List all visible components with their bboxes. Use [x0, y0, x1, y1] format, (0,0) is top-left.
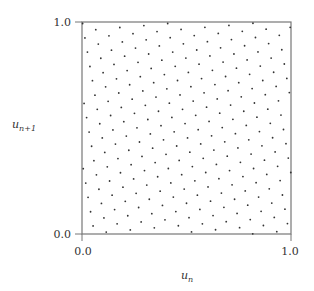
- data-point: [289, 26, 291, 28]
- data-point: [136, 127, 138, 129]
- data-point: [255, 182, 257, 184]
- data-point: [184, 123, 186, 125]
- data-point: [148, 198, 150, 200]
- data-point: [102, 72, 104, 74]
- data-point: [249, 219, 251, 221]
- data-point: [204, 26, 206, 28]
- data-point: [91, 145, 93, 147]
- data-point: [206, 106, 208, 108]
- data-point: [209, 55, 211, 57]
- data-point: [242, 176, 244, 178]
- data-point: [244, 45, 246, 47]
- data-point: [131, 98, 133, 100]
- data-point: [280, 114, 282, 116]
- data-point: [273, 217, 275, 219]
- data-point: [151, 213, 153, 215]
- data-point: [237, 147, 239, 149]
- data-point: [153, 82, 155, 84]
- data-point: [180, 29, 182, 31]
- data-point: [105, 86, 107, 88]
- data-point: [120, 172, 122, 174]
- data-point: [191, 166, 193, 168]
- data-point: [239, 227, 241, 229]
- data-point: [121, 41, 123, 43]
- data-point: [215, 229, 217, 231]
- data-point: [284, 208, 286, 210]
- data-point: [86, 117, 88, 119]
- data-point: [157, 176, 159, 178]
- data-point: [82, 168, 84, 170]
- data-point: [97, 43, 99, 45]
- data-point: [287, 223, 289, 225]
- data-point: [283, 63, 285, 65]
- data-point: [195, 114, 197, 116]
- data-point: [208, 121, 210, 123]
- data-point: [168, 102, 170, 104]
- data-point: [111, 194, 113, 196]
- data-point: [144, 170, 146, 172]
- data-point: [264, 159, 266, 161]
- data-point: [182, 108, 184, 110]
- data-point: [182, 43, 184, 45]
- data-point: [271, 202, 273, 204]
- data-point: [260, 210, 262, 212]
- data-point: [90, 211, 92, 213]
- data-point: [207, 186, 209, 188]
- data-point: [119, 27, 121, 29]
- data-point: [215, 164, 217, 166]
- data-point: [163, 139, 165, 141]
- x-axis-label: un: [181, 269, 193, 284]
- data-point: [259, 131, 261, 133]
- data-point: [256, 116, 258, 118]
- data-point: [125, 135, 127, 137]
- data-point: [252, 233, 254, 235]
- data-point: [99, 123, 101, 125]
- data-point: [201, 78, 203, 80]
- data-point: [274, 151, 276, 153]
- y-tick-label-min: 0.0: [54, 228, 72, 241]
- data-point: [212, 215, 214, 217]
- data-point: [167, 168, 169, 170]
- data-point: [118, 92, 120, 94]
- data-point: [160, 125, 162, 127]
- data-point: [150, 68, 152, 70]
- data-point: [216, 98, 218, 100]
- data-point: [238, 82, 240, 84]
- data-point: [213, 149, 215, 151]
- data-point: [133, 178, 135, 180]
- x-tick-label-max: 1.0: [281, 245, 299, 258]
- data-point: [273, 71, 275, 73]
- data-point: [87, 51, 89, 53]
- data-point: [146, 184, 148, 186]
- data-point: [187, 72, 189, 74]
- data-point: [183, 188, 185, 190]
- data-point: [253, 168, 255, 170]
- data-point: [269, 122, 271, 124]
- data-point: [134, 112, 136, 114]
- data-point: [232, 118, 234, 120]
- data-point: [290, 172, 292, 174]
- data-point: [112, 129, 114, 131]
- data-point: [225, 221, 227, 223]
- data-point: [139, 141, 141, 143]
- data-point: [247, 204, 249, 206]
- data-point: [278, 34, 280, 36]
- data-point: [224, 141, 226, 143]
- data-point: [101, 137, 103, 139]
- data-point: [92, 225, 94, 227]
- data-point: [172, 196, 174, 198]
- data-point: [96, 108, 98, 110]
- data-point: [212, 69, 214, 71]
- data-point: [279, 180, 281, 182]
- data-point: [251, 88, 253, 90]
- data-point: [246, 59, 248, 61]
- data-point: [263, 225, 265, 227]
- data-point: [191, 231, 193, 233]
- data-point: [283, 129, 285, 131]
- data-point: [83, 103, 85, 105]
- data-point: [84, 37, 86, 39]
- data-points: [82, 22, 292, 234]
- data-point: [189, 151, 191, 153]
- data-point: [248, 139, 250, 141]
- data-point: [217, 33, 219, 35]
